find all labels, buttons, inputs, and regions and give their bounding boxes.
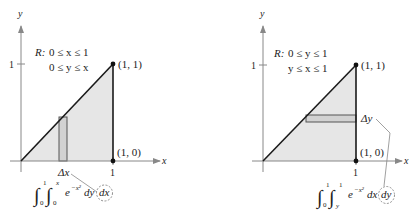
diagram-canvas: y x 1 1 R: 0 ≤ x ≤ 1 0 ≤ y ≤ x (1, 1) (1… (0, 0, 414, 218)
y-axis-label: y (259, 8, 265, 19)
outer-lower-limit: 0 (40, 199, 44, 207)
integral-expression: ∫ 1 0 ∫ x 0 e −x² dy dx (32, 179, 113, 208)
strip-height-label: Δy (360, 112, 372, 124)
x-tick-label: 1 (353, 167, 358, 178)
region-label: R: (34, 46, 45, 58)
inner-lower-limit: 0 (53, 199, 57, 207)
right-diagram: y x 1 1 R: 0 ≤ y ≤ 1 y ≤ x ≤ 1 (1, 1) (1… (251, 8, 409, 210)
region-label: R: (273, 47, 284, 59)
region-bound-line1: 0 ≤ y ≤ 1 (288, 47, 328, 59)
inner-differential: dx (367, 188, 378, 200)
point-label-1-1: (1, 1) (361, 59, 385, 72)
y-tick-label: 1 (9, 59, 14, 70)
x-axis-label: x (161, 155, 167, 166)
inner-upper-limit: 1 (339, 181, 343, 189)
x-axis-label: x (403, 155, 409, 166)
integral-expression: ∫ 1 0 ∫ 1 y e −x² dx dy (315, 181, 395, 210)
vertical-strip (59, 117, 67, 161)
inner-lower-limit: y (335, 202, 340, 210)
x-tick-label: 1 (110, 167, 115, 178)
point-label-1-0: (1, 0) (360, 146, 384, 159)
point-label-1-0: (1, 0) (117, 146, 141, 159)
integrand-base: e (348, 188, 353, 200)
inner-upper-limit: x (55, 179, 60, 187)
point-label-1-1: (1, 1) (118, 58, 142, 71)
integrand-exponent: −x² (71, 184, 82, 192)
outer-lower-limit: 0 (323, 201, 327, 209)
point-1-1 (354, 63, 359, 68)
point-1-0 (111, 159, 116, 164)
outer-differential: dx (99, 186, 110, 198)
left-diagram: y x 1 1 R: 0 ≤ x ≤ 1 0 ≤ y ≤ x (1, 1) (1… (9, 8, 167, 208)
inner-integral-sign: ∫ (327, 186, 336, 210)
point-1-0 (354, 159, 359, 164)
strip-width-label: Δx (57, 166, 69, 178)
inner-integral-sign: ∫ (44, 184, 53, 208)
region-bound-line2: y ≤ x ≤ 1 (288, 62, 328, 74)
integrand-exponent: −x² (354, 186, 365, 194)
point-1-1 (111, 62, 116, 67)
inner-differential: dy (84, 186, 95, 198)
y-axis-label: y (17, 8, 23, 19)
horizontal-strip (306, 115, 356, 122)
region-bound-line1: 0 ≤ x ≤ 1 (49, 46, 89, 58)
outer-differential: dy (381, 188, 392, 200)
region-bound-line2: 0 ≤ y ≤ x (49, 61, 89, 73)
integrand-base: e (65, 186, 70, 198)
y-tick-label: 1 (251, 60, 256, 71)
